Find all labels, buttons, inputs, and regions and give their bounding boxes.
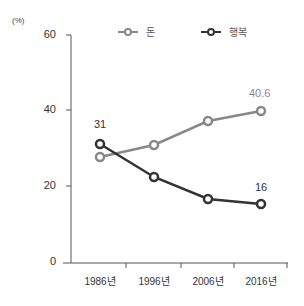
annotation-happiness-1986: 31 <box>94 118 106 130</box>
series-happiness-line <box>100 144 261 204</box>
plot-area <box>0 0 304 306</box>
x-tick-1986: 1986년 <box>75 273 125 288</box>
annotation-happiness-2016: 16 <box>255 181 267 193</box>
annotation-money-2016: 40.6 <box>249 87 270 99</box>
series-money-line <box>100 111 261 157</box>
line-chart: (%) 60 40 20 0 돈 행복 <box>0 0 304 306</box>
x-tick-2016: 2016년 <box>236 273 286 288</box>
x-tick-1996: 1996년 <box>129 273 179 288</box>
x-tick-2006: 2006년 <box>183 273 233 288</box>
